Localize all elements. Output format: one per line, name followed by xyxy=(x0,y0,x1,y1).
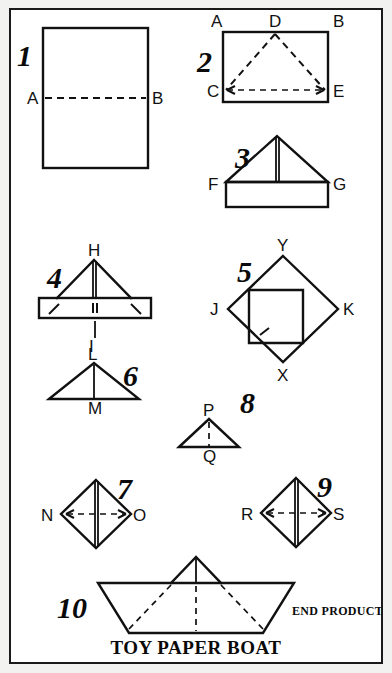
step-9-number: 9 xyxy=(317,470,332,503)
step-5-flap-tuck-mark xyxy=(260,328,269,335)
step-10-group: 10 END PRODUCT xyxy=(57,557,381,633)
step-6-point-label-l: L xyxy=(88,345,97,364)
step-7-number: 7 xyxy=(117,472,133,505)
step-8-number: 8 xyxy=(240,386,255,419)
step-3-group: 3 F G xyxy=(208,136,346,207)
step-2-fold-line-de xyxy=(275,34,325,90)
boat-fold-left xyxy=(129,585,171,629)
step-3-number: 3 xyxy=(234,141,250,174)
instruction-sheet: 1 A B 2 A B C D E xyxy=(0,0,392,673)
page-title: TOY PAPER BOAT xyxy=(111,637,282,658)
step-10-number: 10 xyxy=(57,591,87,624)
step-5-point-label-x: X xyxy=(277,366,288,385)
step-2-point-label-a: A xyxy=(211,12,223,31)
step-2-number: 2 xyxy=(196,45,212,78)
step-4-number: 4 xyxy=(46,261,62,294)
step-6-group: 6 L M xyxy=(49,345,139,418)
step-3-point-label-g: G xyxy=(333,175,346,194)
step-4-tuck-mark-left xyxy=(49,304,59,314)
step-8-point-label-q: Q xyxy=(203,447,216,466)
step-2-group: 2 A B C D E xyxy=(196,12,344,102)
step-4-centre-tuck-marks xyxy=(93,303,97,313)
step-4-group: 4 H I xyxy=(39,241,151,356)
step-4-tuck-mark-right xyxy=(131,304,141,314)
step-6-number: 6 xyxy=(123,359,138,392)
step-5-group: 5 Y J K X xyxy=(210,236,355,385)
step-3-band-rectangle xyxy=(226,182,328,207)
step-8-point-label-p: P xyxy=(203,401,214,420)
step-5-inner-square xyxy=(249,290,303,343)
step-4-point-label-h: H xyxy=(88,241,100,260)
step-3-point-label-f: F xyxy=(208,175,218,194)
step-9-group: 9 R S xyxy=(241,470,344,547)
step-2-point-label-d: D xyxy=(269,12,281,31)
step-5-point-label-y: Y xyxy=(277,236,288,255)
step-2-paper-rectangle xyxy=(223,32,328,102)
step-5-number: 5 xyxy=(237,255,252,288)
step-5-point-label-j: J xyxy=(210,300,219,319)
origami-instruction-diagram: 1 A B 2 A B C D E xyxy=(11,10,381,662)
step-1-number: 1 xyxy=(17,39,32,72)
step-7-group: 7 N O xyxy=(41,472,146,548)
step-2-point-label-b: B xyxy=(333,12,344,31)
step-9-point-label-s: S xyxy=(333,505,344,524)
step-5-point-label-k: K xyxy=(343,300,355,319)
step-6-point-label-m: M xyxy=(88,399,102,418)
step-2-point-label-c: C xyxy=(207,82,219,101)
step-2-point-label-e: E xyxy=(333,82,344,101)
step-9-point-label-r: R xyxy=(241,505,253,524)
step-4-triangle-flap xyxy=(57,260,131,298)
step-7-point-label-n: N xyxy=(41,506,53,525)
step-2-fold-line-dc xyxy=(226,34,275,90)
step-1-point-label-a: A xyxy=(27,89,39,108)
end-product-label: END PRODUCT xyxy=(292,604,381,618)
step-7-point-label-o: O xyxy=(133,506,146,525)
diagram-frame: 1 A B 2 A B C D E xyxy=(9,8,383,664)
step-1-group: 1 A B xyxy=(17,28,163,168)
boat-fold-right xyxy=(221,585,263,629)
step-8-group: 8 P Q xyxy=(179,386,255,466)
step-1-point-label-b: B xyxy=(152,89,163,108)
